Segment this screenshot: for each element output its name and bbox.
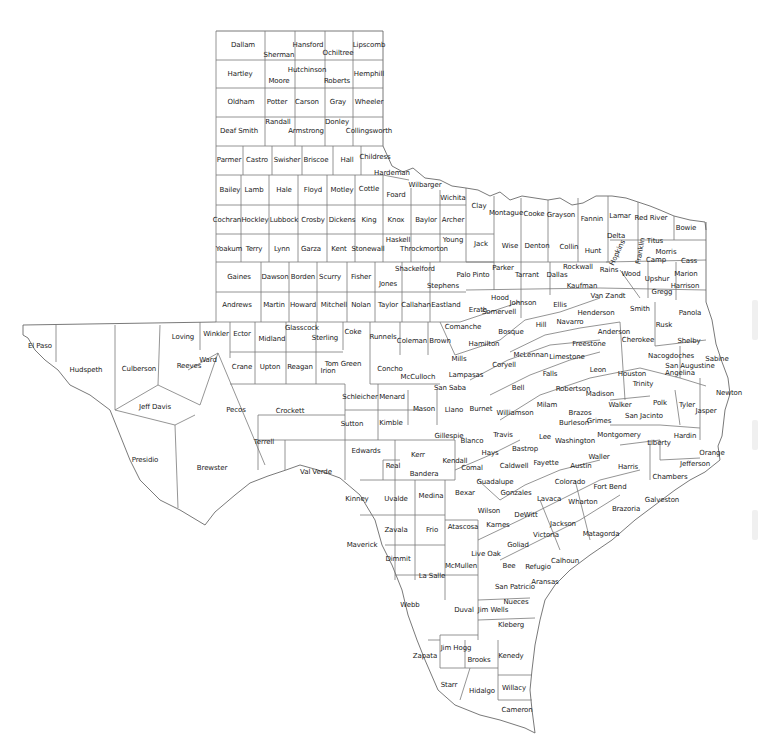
- county-label-lamar: Lamar: [609, 213, 631, 220]
- county-label-ector: Ector: [233, 331, 251, 338]
- county-label-galveston: Galveston: [645, 497, 679, 504]
- county-label-jasper: Jasper: [695, 408, 716, 415]
- county-label-live-oak: Live Oak: [471, 551, 501, 558]
- county-label-walker: Walker: [608, 402, 631, 409]
- county-label-donley: Donley: [325, 119, 349, 126]
- county-label-frio: Frio: [426, 527, 438, 534]
- panhandle-grid: [23, 31, 730, 733]
- county-label-sherman: Sherman: [264, 52, 295, 59]
- county-label-sutton: Sutton: [341, 421, 364, 428]
- county-label-starr: Starr: [441, 682, 458, 689]
- county-label-brazos: Brazos: [569, 410, 592, 417]
- county-label-travis: Travis: [493, 432, 513, 439]
- county-label-mason: Mason: [413, 406, 435, 413]
- county-label-cherokee: Cherokee: [622, 337, 654, 344]
- county-label-refugio: Refugio: [525, 564, 551, 571]
- county-label-coleman: Coleman: [397, 338, 427, 345]
- county-label-menard: Menard: [379, 394, 405, 401]
- county-label-throckmorton: Throckmorton: [400, 246, 448, 253]
- county-label-ward: Ward: [199, 357, 217, 364]
- county-label-calhoun: Calhoun: [551, 558, 579, 565]
- county-label-somervell: Somervell: [482, 309, 516, 316]
- county-label-wise: Wise: [502, 243, 518, 250]
- county-label-gregg: Gregg: [652, 289, 673, 296]
- county-label-stonewall: Stonewall: [351, 246, 384, 253]
- county-label-llano: Llano: [445, 407, 463, 414]
- county-label-roberts: Roberts: [324, 78, 350, 85]
- county-label-kleberg: Kleberg: [498, 622, 524, 629]
- county-label-polk: Polk: [653, 400, 667, 407]
- county-label-madison: Madison: [586, 391, 614, 398]
- county-label-titus: Titus: [647, 238, 663, 245]
- county-label-kinney: Kinney: [345, 496, 368, 503]
- county-label-atascosa: Atascosa: [448, 524, 479, 531]
- county-label-cass: Cass: [681, 258, 697, 265]
- county-label-tarrant: Tarrant: [515, 272, 539, 279]
- county-label-bexar: Bexar: [455, 490, 475, 497]
- county-label-kaufman: Kaufman: [567, 283, 598, 290]
- county-label-van-zandt: Van Zandt: [590, 293, 625, 300]
- county-label-cochran: Cochran: [213, 217, 241, 224]
- county-label-cooke: Cooke: [523, 211, 544, 218]
- county-label-rusk: Rusk: [656, 322, 672, 329]
- county-label-floyd: Floyd: [304, 187, 322, 194]
- county-label-hansford: Hansford: [293, 42, 324, 49]
- county-label-culberson: Culberson: [122, 366, 156, 373]
- county-label-blanco: Blanco: [460, 438, 483, 445]
- county-label-gillespie: Gillespie: [434, 433, 463, 440]
- county-label-liberty: Liberty: [647, 440, 671, 447]
- county-label-castro: Castro: [246, 157, 268, 164]
- county-label-wilbarger: Wilbarger: [409, 182, 442, 189]
- county-label-real: Real: [386, 463, 401, 470]
- county-label-dickens: Dickens: [329, 217, 356, 224]
- county-label-medina: Medina: [419, 493, 444, 500]
- county-label-coke: Coke: [345, 329, 362, 336]
- county-label-zapata: Zapata: [413, 653, 437, 660]
- county-label-bastrop: Bastrop: [512, 446, 538, 453]
- county-label-stephens: Stephens: [427, 283, 459, 290]
- county-label-runnels: Runnels: [369, 334, 396, 341]
- county-label-freestone: Freestone: [572, 341, 605, 348]
- county-label-rains: Rains: [600, 267, 619, 274]
- county-label-lynn: Lynn: [274, 246, 290, 253]
- county-label-el-paso: El Paso: [28, 343, 52, 350]
- county-label-kenedy: Kenedy: [498, 653, 523, 660]
- county-label-gonzales: Gonzales: [500, 490, 531, 497]
- county-label-randall: Randall: [265, 119, 290, 126]
- county-label-wichita: Wichita: [440, 195, 465, 202]
- county-label-navarro: Navarro: [556, 319, 583, 326]
- county-label-zavala: Zavala: [384, 527, 407, 534]
- county-label-bosque: Bosque: [498, 329, 523, 336]
- county-label-lavaca: Lavaca: [537, 496, 561, 503]
- county-label-potter: Potter: [267, 99, 287, 106]
- county-label-jack: Jack: [474, 241, 488, 248]
- county-label-bee: Bee: [502, 563, 515, 570]
- county-label-wharton: Wharton: [568, 499, 597, 506]
- county-label-dawson: Dawson: [261, 274, 288, 281]
- county-label-lipscomb: Lipscomb: [353, 42, 386, 49]
- county-label-williamson: Williamson: [496, 410, 533, 417]
- county-label-midland: Midland: [259, 336, 286, 343]
- county-label-parmer: Parmer: [217, 157, 241, 164]
- county-label-wheeler: Wheeler: [355, 99, 383, 106]
- county-label-harris: Harris: [618, 464, 638, 471]
- county-label-glasscock: Glasscock: [285, 325, 319, 332]
- county-label-crosby: Crosby: [301, 217, 325, 224]
- county-label-san-patricio: San Patricio: [495, 584, 535, 591]
- county-label-brooks: Brooks: [467, 657, 490, 664]
- county-label-crane: Crane: [232, 364, 252, 371]
- county-label-comal: Comal: [461, 465, 483, 472]
- county-label-val-verde: Val Verde: [300, 469, 332, 476]
- county-label-parker: Parker: [492, 265, 513, 272]
- county-label-grimes: Grimes: [587, 418, 611, 425]
- county-label-newton: Newton: [716, 390, 742, 397]
- county-label-oldham: Oldham: [228, 99, 255, 106]
- county-label-concho: Concho: [377, 366, 403, 373]
- county-label-uvalde: Uvalde: [384, 496, 408, 503]
- county-label-garza: Garza: [301, 246, 321, 253]
- county-label-fisher: Fisher: [351, 274, 371, 281]
- county-label-leon: Leon: [590, 367, 606, 374]
- county-label-childress: Childress: [359, 154, 390, 161]
- county-label-reeves: Reeves: [177, 363, 202, 370]
- county-label-bailey: Bailey: [220, 187, 241, 194]
